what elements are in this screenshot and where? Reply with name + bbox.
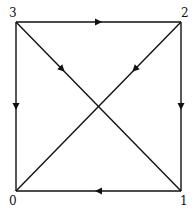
graph-canvas: 0 1 2 3 — [0, 0, 196, 211]
arrowhead-icon — [13, 103, 20, 110]
node-label-2: 2 — [181, 6, 189, 20]
node-label-0: 0 — [9, 194, 17, 208]
arrowhead-icon — [178, 103, 185, 110]
arrowhead-icon — [95, 19, 102, 26]
node-label-1: 1 — [180, 194, 188, 208]
edges — [13, 19, 185, 195]
node-label-3: 3 — [9, 6, 17, 20]
arrowhead-icon — [95, 188, 102, 195]
